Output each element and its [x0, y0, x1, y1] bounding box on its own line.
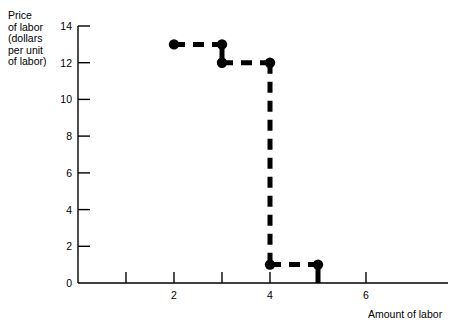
data-point	[169, 39, 179, 49]
y-tick-label: 12	[60, 57, 72, 69]
chart-plot-area: 14 12 10 8 6 4 2 0 2 4 6	[0, 0, 458, 326]
data-point	[313, 259, 323, 269]
data-point	[217, 39, 227, 49]
y-axis-tick-labels: 14 12 10 8 6 4 2 0	[60, 20, 72, 289]
x-axis-ticks	[126, 272, 366, 283]
y-tick-label: 8	[66, 130, 72, 142]
x-axis-title: Amount of labor	[368, 308, 442, 320]
y-tick-label: 0	[66, 277, 72, 289]
data-point-markers	[169, 39, 323, 270]
x-tick-label: 4	[267, 289, 273, 301]
y-tick-label: 4	[66, 204, 72, 216]
y-tick-label: 2	[66, 240, 72, 252]
data-point	[265, 58, 275, 68]
y-tick-label: 10	[60, 93, 72, 105]
data-point	[217, 58, 227, 68]
x-tick-label: 6	[363, 289, 369, 301]
chart-container: Price of labor (dollars per unit of labo…	[0, 0, 458, 326]
y-axis-ticks	[78, 26, 90, 246]
x-tick-label: 2	[171, 289, 177, 301]
x-axis-tick-labels: 2 4 6	[171, 289, 369, 301]
y-tick-label: 6	[66, 167, 72, 179]
y-tick-label: 14	[60, 20, 72, 32]
data-series-step-curve	[174, 44, 318, 283]
data-point	[265, 259, 275, 269]
